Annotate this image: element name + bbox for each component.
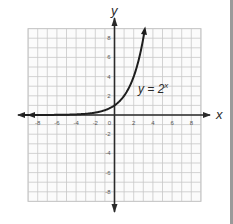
graph-figure: -8-6-4-2024688642-2-4-6-8 x y y = 2x <box>0 0 233 224</box>
y-tick-label: -6 <box>105 170 111 176</box>
y-tick-label: -4 <box>105 150 111 156</box>
coordinate-plane: -8-6-4-2024688642-2-4-6-8 x y y = 2x <box>0 0 233 224</box>
x-tick-label: -4 <box>73 120 79 126</box>
y-axis-label: y <box>110 3 119 18</box>
x-tick-label: -8 <box>35 120 41 126</box>
x-axis-label: x <box>215 107 223 122</box>
x-axis-arrow-right-icon <box>203 112 211 118</box>
y-tick-label: -8 <box>105 189 111 195</box>
x-tick-label: -6 <box>54 120 60 126</box>
y-axis-arrow-down-icon <box>112 204 118 213</box>
y-tick-label: -2 <box>105 131 111 137</box>
x-tick-label: -2 <box>93 120 99 126</box>
page-edge <box>230 0 233 224</box>
function-label-base: y = 2 <box>137 82 165 96</box>
y-axis-arrow-up-icon <box>112 17 118 26</box>
